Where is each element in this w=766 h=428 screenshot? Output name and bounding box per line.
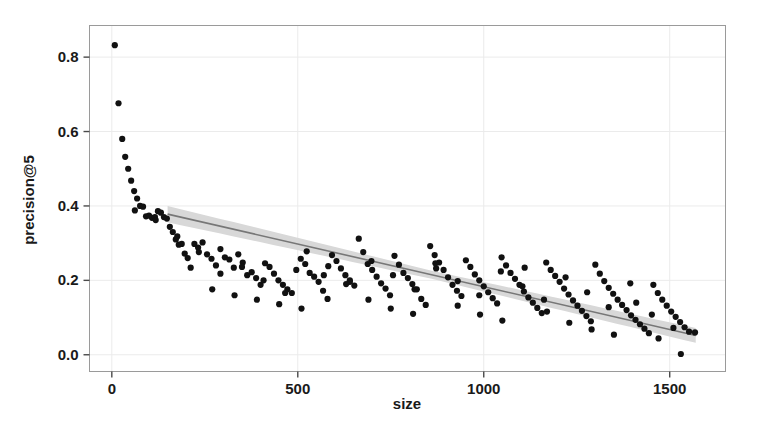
figure-container: 050010001500 0.00.20.40.60.8 size precis…	[0, 0, 766, 428]
y-tick-label: 0.2	[58, 271, 79, 288]
x-tick-label: 500	[285, 380, 310, 397]
scatter-plot: 050010001500 0.00.20.40.60.8 size precis…	[0, 0, 766, 428]
x-tick-label: 1000	[467, 380, 500, 397]
y-tick-label: 0.0	[58, 346, 79, 363]
y-tick-label: 0.8	[58, 48, 79, 65]
x-axis-title: size	[393, 395, 421, 412]
figure-background	[0, 0, 766, 428]
x-tick-label: 1500	[653, 380, 686, 397]
y-tick-label: 0.4	[58, 197, 80, 214]
y-axis-title: precision@5	[20, 155, 37, 245]
x-tick-label: 0	[108, 380, 116, 397]
y-tick-label: 0.6	[58, 123, 79, 140]
